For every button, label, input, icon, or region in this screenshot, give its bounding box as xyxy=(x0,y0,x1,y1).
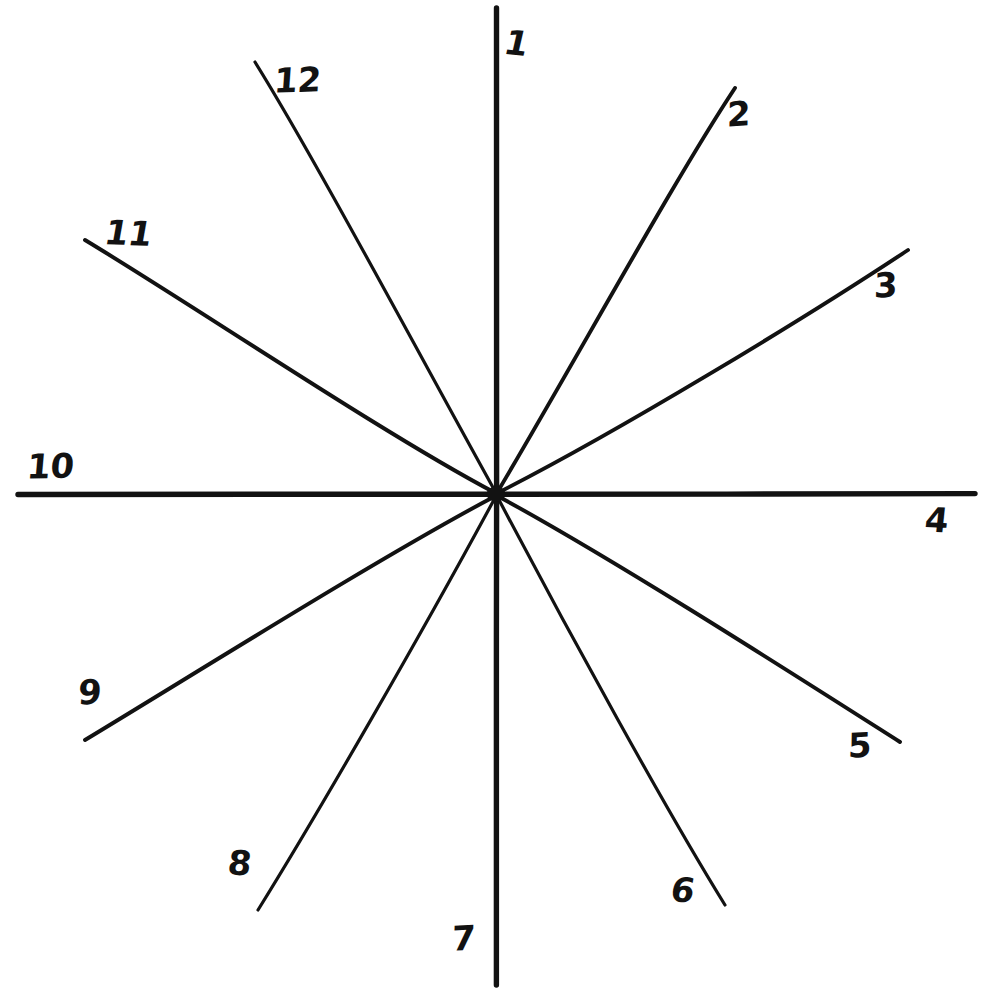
ray-line-11 xyxy=(85,240,495,493)
ray-label-10: 10 xyxy=(26,449,76,484)
ray-line-8 xyxy=(258,497,496,910)
center-point xyxy=(487,487,506,502)
diagram-canvas xyxy=(0,0,992,1006)
ray-line-12 xyxy=(255,62,496,492)
ray-line-9 xyxy=(85,497,495,741)
ray-line-2 xyxy=(498,88,736,492)
ray-line-3 xyxy=(499,250,909,493)
ray-label-8: 8 xyxy=(226,845,254,880)
ray-label-12: 12 xyxy=(273,62,323,98)
ray-label-11: 11 xyxy=(102,215,155,250)
ray-line-6 xyxy=(498,497,726,905)
ray-label-9: 9 xyxy=(77,675,102,710)
radial-line-diagram: 1 2 3 4 5 6 7 8 9 10 11 12 xyxy=(0,0,992,1006)
ray-label-5: 5 xyxy=(848,727,872,762)
ray-line-4 xyxy=(499,494,975,495)
ray-label-2: 2 xyxy=(727,96,751,132)
ray-label-3: 3 xyxy=(874,268,898,303)
ray-line-5 xyxy=(499,497,901,743)
ray-label-4: 4 xyxy=(923,503,950,538)
ray-label-7: 7 xyxy=(451,920,476,955)
